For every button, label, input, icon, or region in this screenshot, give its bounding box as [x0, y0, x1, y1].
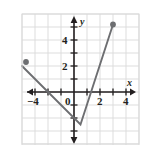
y-axis-up-arrow — [71, 16, 78, 23]
x-tick-label-4: 4 — [123, 96, 129, 107]
y-axis-label: y — [80, 17, 84, 27]
y-axis-down-arrow — [71, 137, 78, 144]
graph-figure: y x 4 2 −4 0 2 4 — [0, 0, 152, 151]
x-axis — [27, 89, 136, 96]
y-tick-label-2: 2 — [62, 61, 68, 72]
coordinate-plane-svg — [0, 0, 152, 151]
y-tick-label-4: 4 — [62, 35, 68, 46]
x-tick-label-2: 2 — [97, 96, 103, 107]
endpoint-left-dot — [23, 59, 29, 65]
x-axis-label: x — [127, 78, 132, 88]
x-tick-label-neg4: −4 — [27, 96, 39, 107]
absolute-value-curve — [22, 22, 116, 125]
y-axis — [71, 16, 78, 144]
x-tick-label-0: 0 — [65, 96, 71, 107]
endpoint-right-dot — [110, 22, 116, 28]
x-axis-right-arrow — [130, 89, 136, 96]
